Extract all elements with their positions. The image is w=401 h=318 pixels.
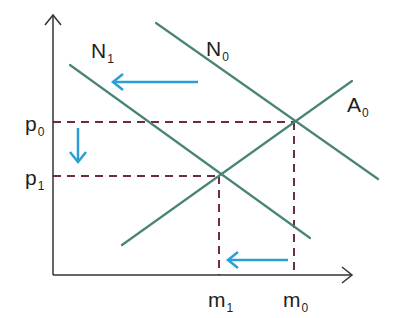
y-tick-label-p0: p0 — [25, 113, 44, 134]
curve-label-a0-subscript: 0 — [362, 106, 369, 120]
x-tick-label-m0: m0 — [283, 289, 308, 310]
y-tick-label-p1-text: p — [25, 166, 37, 189]
curve-label-n0-subscript: 0 — [222, 50, 229, 64]
x-tick-label-m1: m1 — [208, 289, 233, 310]
x-tick-label-m1-subscript: 1 — [227, 301, 234, 315]
x-tick-label-m1-text: m — [208, 288, 226, 311]
curve-label-n0-text: N — [206, 37, 221, 60]
supply-demand-diagram: N0N1A0p0p1m1m0 — [0, 0, 401, 318]
curve-label-n1-text: N — [91, 39, 106, 62]
diagram-canvas — [0, 0, 401, 318]
curve-label-n0: N0 — [206, 38, 229, 59]
x-tick-label-m0-subscript: 0 — [302, 301, 309, 315]
curve-label-n1: N1 — [91, 40, 114, 61]
y-tick-label-p0-text: p — [25, 112, 37, 135]
x-tick-label-m0-text: m — [283, 288, 301, 311]
curve-n1 — [70, 65, 310, 238]
y-tick-label-p1: p1 — [25, 167, 44, 188]
y-tick-label-p0-subscript: 0 — [38, 125, 45, 139]
curve-a0 — [122, 81, 352, 245]
y-tick-label-p1-subscript: 1 — [38, 179, 45, 193]
curve-label-a0: A0 — [347, 94, 369, 115]
curve-label-a0-text: A — [347, 93, 361, 116]
curve-n0 — [156, 23, 378, 179]
curve-label-n1-subscript: 1 — [107, 52, 114, 66]
